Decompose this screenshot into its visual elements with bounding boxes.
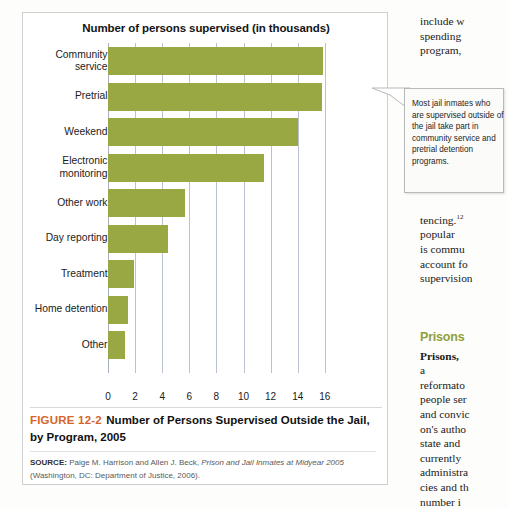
category-label: Other work bbox=[0, 197, 108, 209]
bar-row: Other bbox=[23, 327, 389, 363]
bar-row: Pretrial bbox=[23, 79, 389, 115]
bar-chart-plot: Community servicePretrialWeekendElectron… bbox=[23, 43, 389, 391]
bar bbox=[108, 47, 323, 75]
bar-row: Electronic monitoring bbox=[23, 150, 389, 186]
x-tick-label-12: 12 bbox=[265, 391, 276, 402]
bar-row: Home detention bbox=[23, 292, 389, 328]
body-bottom-text: a reformato people ser and convic on's a… bbox=[420, 363, 508, 509]
source-divider bbox=[30, 451, 376, 452]
category-label: Weekend bbox=[0, 126, 108, 138]
category-label: Other bbox=[0, 339, 108, 351]
callout-text: Most jail inmates who are supervised out… bbox=[412, 98, 504, 168]
chart-title: Number of persons supervised (in thousan… bbox=[23, 22, 389, 34]
callout-box: Most jail inmates who are supervised out… bbox=[404, 88, 504, 193]
caption-divider bbox=[30, 407, 382, 408]
source-publisher: (Washington, DC: Department of Justice, … bbox=[30, 471, 200, 480]
body-mid-text-1: tencing. bbox=[420, 214, 456, 226]
body-paragraph-mid: tencing.12 popular is commu account fo s… bbox=[420, 210, 508, 286]
bar bbox=[108, 331, 125, 359]
bar bbox=[108, 189, 185, 217]
x-tick-label-8: 8 bbox=[214, 391, 220, 402]
category-label: Community service bbox=[0, 48, 108, 73]
x-tick-label-2: 2 bbox=[132, 391, 138, 402]
bar bbox=[108, 154, 264, 182]
bar bbox=[108, 118, 298, 146]
bold-term-prisons: Prisons, bbox=[420, 350, 459, 362]
source-label: SOURCE: bbox=[30, 458, 67, 467]
bar bbox=[108, 83, 322, 111]
figure-source: SOURCE: Paige M. Harrison and Allen J. B… bbox=[30, 457, 376, 482]
figure-number: FIGURE 12-2 bbox=[30, 414, 102, 426]
bar-row: Other work bbox=[23, 185, 389, 221]
category-label: Electronic monitoring bbox=[0, 155, 108, 180]
body-paragraph-top: include w spending program, bbox=[420, 14, 508, 58]
x-tick-label-14: 14 bbox=[292, 391, 303, 402]
x-tick-label-4: 4 bbox=[159, 391, 165, 402]
body-top-text: include w spending program, bbox=[420, 14, 508, 58]
x-tick-label-6: 6 bbox=[187, 391, 193, 402]
category-label: Home detention bbox=[0, 303, 108, 315]
bar bbox=[108, 225, 168, 253]
category-label: Pretrial bbox=[0, 90, 108, 102]
section-heading-prisons: Prisons bbox=[420, 330, 508, 345]
bar bbox=[108, 296, 128, 324]
source-authors: Paige M. Harrison and Allen J. Beck, bbox=[69, 458, 199, 467]
figure-panel: Number of persons supervised (in thousan… bbox=[22, 12, 388, 485]
footnote-marker-12: 12 bbox=[456, 213, 463, 221]
category-label: Day reporting bbox=[0, 232, 108, 244]
x-axis-ticks: 0246810121416 bbox=[23, 391, 389, 407]
bar-row: Day reporting bbox=[23, 221, 389, 257]
figure-caption: FIGURE 12-2 Number of Persons Supervised… bbox=[30, 411, 382, 445]
bar bbox=[108, 260, 134, 288]
body-section-prisons: Prisons Prisons, a reformato people ser … bbox=[420, 330, 508, 509]
source-work-title: Prison and Jail Inmates at Midyear 2005 bbox=[201, 458, 344, 467]
category-label: Treatment bbox=[0, 268, 108, 280]
x-tick-label-16: 16 bbox=[319, 391, 330, 402]
bar-row: Weekend bbox=[23, 114, 389, 150]
bar-row: Community service bbox=[23, 43, 389, 79]
bar-row: Treatment bbox=[23, 256, 389, 292]
x-tick-label-10: 10 bbox=[238, 391, 249, 402]
x-tick-label-0: 0 bbox=[105, 391, 111, 402]
body-mid-text-2: popular is commu account fo supervision bbox=[420, 227, 508, 285]
